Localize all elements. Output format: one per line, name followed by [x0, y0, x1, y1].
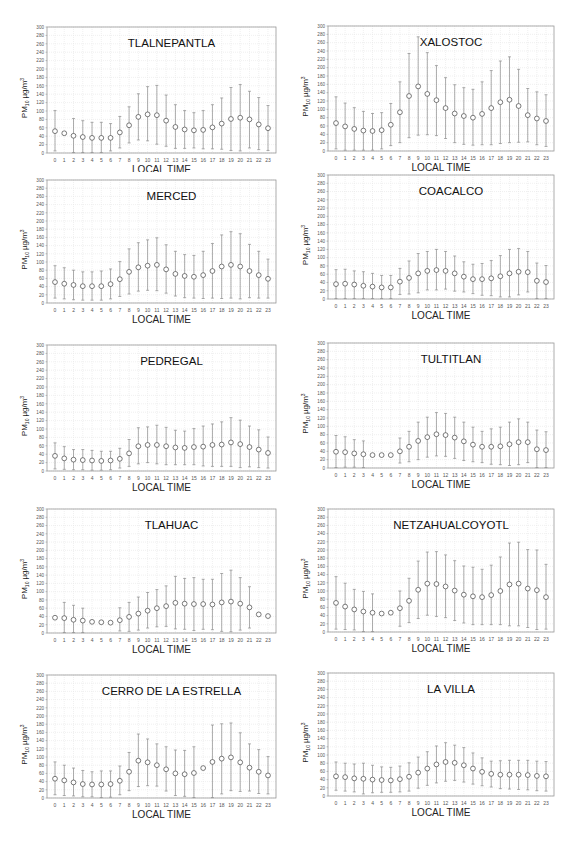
mean-marker	[53, 776, 58, 781]
svg-text:6: 6	[109, 802, 112, 808]
svg-text:160: 160	[36, 565, 44, 570]
svg-text:5: 5	[100, 307, 103, 313]
mean-marker	[192, 602, 197, 607]
mean-marker	[534, 588, 539, 593]
mean-marker	[434, 432, 439, 437]
mean-marker	[219, 264, 224, 269]
mean-marker	[507, 582, 512, 587]
mean-marker	[219, 600, 224, 605]
svg-text:180: 180	[317, 222, 325, 227]
svg-text:260: 260	[36, 360, 44, 365]
y-axis-label: PM10µg/m3	[19, 724, 30, 765]
svg-text:80: 80	[39, 763, 45, 768]
chart-svg: 0204060801001201401601802002202402602803…	[0, 502, 290, 674]
mean-marker	[361, 283, 366, 288]
svg-text:5: 5	[380, 155, 383, 161]
svg-text:180: 180	[317, 391, 325, 396]
y-axis-ticks: 0204060801001201401601802002202402602803…	[36, 25, 47, 156]
mean-marker	[480, 277, 485, 282]
mean-marker	[452, 588, 457, 593]
x-axis-label: LOCAL TIME	[412, 643, 471, 654]
svg-text:10: 10	[145, 307, 151, 313]
svg-text:200: 200	[317, 214, 325, 219]
svg-text:16: 16	[200, 475, 206, 481]
mean-marker	[164, 267, 169, 272]
svg-text:12: 12	[443, 303, 449, 309]
chart-svg: 0204060801001201401601802002202402602803…	[0, 168, 290, 340]
svg-text:7: 7	[118, 802, 121, 808]
mean-marker	[343, 124, 348, 129]
svg-text:260: 260	[317, 40, 325, 45]
mean-marker	[99, 135, 104, 140]
svg-text:19: 19	[507, 303, 513, 309]
svg-text:7: 7	[399, 303, 402, 309]
svg-text:160: 160	[36, 84, 44, 89]
svg-text:22: 22	[534, 155, 540, 161]
svg-text:5: 5	[380, 636, 383, 642]
mean-marker	[370, 610, 375, 615]
mean-marker	[210, 443, 215, 448]
svg-text:1: 1	[344, 155, 347, 161]
svg-text:18: 18	[219, 475, 225, 481]
chart-panel-xalostoc: 0204060801001201401601802002202402602803…	[290, 0, 580, 168]
svg-text:23: 23	[265, 475, 271, 481]
y-axis-label: PM10µg/m3	[300, 558, 311, 599]
mean-marker	[145, 112, 150, 117]
mean-marker	[407, 774, 412, 779]
chart-title: LA VILLA	[427, 683, 475, 695]
svg-text:8: 8	[128, 307, 131, 313]
svg-text:17: 17	[488, 472, 494, 478]
svg-text:220: 220	[36, 540, 44, 545]
svg-text:60: 60	[39, 444, 45, 449]
mean-marker	[480, 112, 485, 117]
svg-text:200: 200	[36, 67, 44, 72]
svg-text:14: 14	[461, 303, 467, 309]
svg-text:17: 17	[488, 303, 494, 309]
svg-text:60: 60	[39, 771, 45, 776]
svg-text:23: 23	[543, 472, 549, 478]
svg-text:280: 280	[36, 186, 44, 191]
svg-text:20: 20	[516, 303, 522, 309]
mean-marker	[108, 458, 113, 463]
chart-panel-tlahuac: 0204060801001201401601802002202402602803…	[0, 502, 290, 670]
mean-marker	[71, 617, 76, 622]
mean-marker	[238, 760, 243, 765]
svg-text:10: 10	[425, 155, 431, 161]
svg-text:19: 19	[507, 800, 513, 806]
svg-text:120: 120	[317, 581, 325, 586]
data-series	[334, 413, 549, 468]
mean-marker	[80, 618, 85, 623]
mean-marker	[256, 273, 261, 278]
mean-marker	[379, 128, 384, 133]
svg-text:7: 7	[399, 155, 402, 161]
svg-text:13: 13	[452, 155, 458, 161]
svg-text:21: 21	[247, 475, 253, 481]
svg-text:80: 80	[320, 597, 326, 602]
mean-marker	[425, 766, 430, 771]
chart-svg: 0204060801001201401601802002202402602803…	[0, 0, 290, 172]
svg-text:0: 0	[41, 796, 44, 801]
svg-text:23: 23	[265, 637, 271, 643]
svg-text:12: 12	[443, 636, 449, 642]
mean-marker	[192, 445, 197, 450]
svg-text:5: 5	[380, 472, 383, 478]
svg-text:21: 21	[525, 303, 531, 309]
mean-marker	[201, 444, 206, 449]
chart-svg: 0204060801001201401601802002202402602803…	[290, 0, 580, 172]
svg-text:3: 3	[362, 155, 365, 161]
svg-text:8: 8	[128, 157, 131, 163]
svg-text:160: 160	[317, 564, 325, 569]
mean-marker	[154, 606, 159, 611]
svg-text:22: 22	[256, 637, 262, 643]
svg-text:12: 12	[163, 802, 169, 808]
svg-text:9: 9	[137, 307, 140, 313]
svg-text:100: 100	[317, 753, 325, 758]
svg-text:200: 200	[36, 385, 44, 390]
svg-text:15: 15	[470, 636, 476, 642]
y-axis-label: PM10µg/m3	[19, 559, 30, 600]
svg-text:21: 21	[525, 800, 531, 806]
svg-text:12: 12	[443, 800, 449, 806]
mean-marker	[256, 769, 261, 774]
mean-marker	[334, 600, 339, 605]
svg-text:17: 17	[210, 475, 216, 481]
